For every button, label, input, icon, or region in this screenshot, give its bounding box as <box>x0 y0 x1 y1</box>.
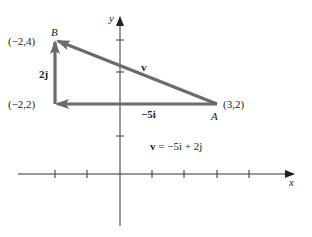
equation-rhs: = −5i + 2j <box>156 140 203 152</box>
vector-2j-label: 2j <box>39 68 48 80</box>
point-a-coords: (3,2) <box>223 98 244 111</box>
point-c-coords: (−2,2) <box>8 98 36 111</box>
x-axis: x <box>18 170 294 188</box>
point-b-label: B <box>51 26 58 38</box>
x-axis-label: x <box>288 176 294 188</box>
vector-v-label: v <box>141 61 147 73</box>
y-axis: y <box>108 12 124 226</box>
point-b-coords: (−2,4) <box>8 35 36 48</box>
point-a-label: A <box>210 110 218 122</box>
vector-equation: v = −5i + 2j <box>150 140 202 152</box>
y-axis-label: y <box>108 12 114 24</box>
vector-minus-5i-label: −5i <box>141 108 156 120</box>
vector-v <box>58 41 217 104</box>
vector-diagram: x y B (−2,4) (−2,2) 2j v −5i A (3,2) v =… <box>0 0 312 237</box>
